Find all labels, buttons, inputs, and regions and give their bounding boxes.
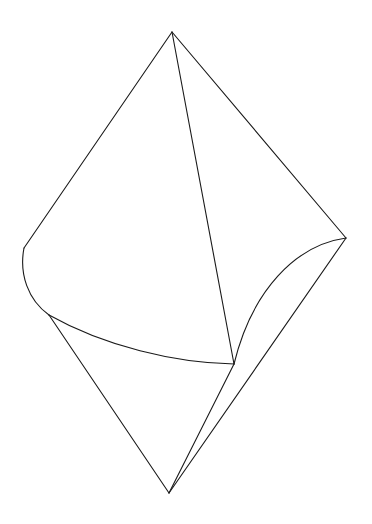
figure-canvas: [0, 0, 372, 524]
curve-right-vertex-to-node: [234, 238, 346, 364]
line-drawing-svg: [0, 0, 372, 524]
edge-apex-to-node: [172, 32, 234, 364]
edge-apex-to-left: [24, 32, 172, 248]
edge-node-to-bottom: [169, 364, 234, 493]
edge-apex-to-right: [172, 32, 346, 238]
edge-right-vertex-to-bottom: [169, 238, 346, 493]
curve-left-vertex-to-cusp: [23, 248, 49, 315]
